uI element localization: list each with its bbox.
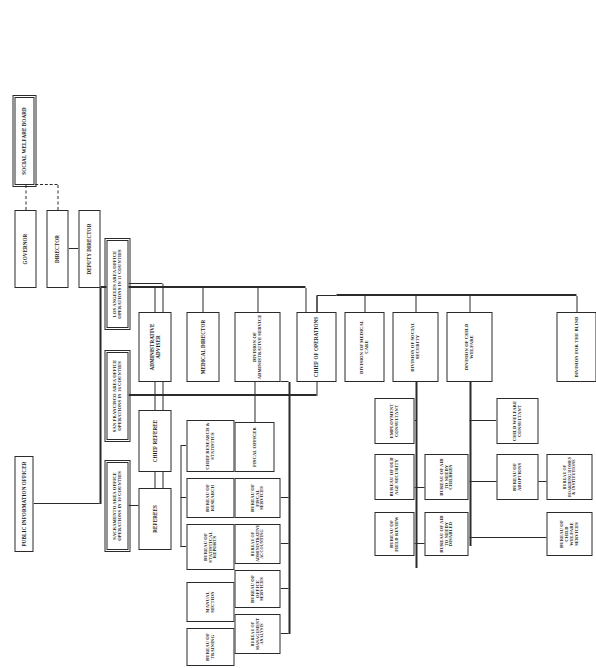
link-spine-division-admin-service	[257, 288, 258, 312]
node-division-for-the-blind: DIVISION FOR THE BLIND	[556, 312, 596, 382]
link-spine-admin-adviser	[154, 288, 155, 312]
node-manual-section: MANUAL SECTION	[186, 582, 234, 622]
dashed-link-governor-board	[25, 185, 26, 210]
node-social-welfare-board: SOCIAL WELFARE BOARD	[14, 97, 34, 185]
node-medical-director: MEDICAL DIRECTOR	[186, 312, 219, 382]
node-referees: REFEREES	[138, 488, 171, 550]
child-welfare-bus	[469, 382, 471, 546]
link-division-fiscal-officer	[254, 382, 255, 422]
social-security-bus	[415, 382, 417, 568]
node-san-francisco-area-office: SAN FRANCISCO AREA OFFICE OPERATIONS IN …	[106, 352, 128, 440]
link-spine-blind	[576, 296, 577, 312]
node-division-medical-care: DIVISION OF MEDICAL CARE	[344, 312, 384, 382]
node-bureau-management-analysis: BUREAU OF MANAGEMENT ANALYSIS	[234, 614, 280, 654]
node-bureau-aid-needy-children: BUREAU OF AID TO NEEDY CHILDREN	[424, 454, 468, 500]
bracket-drop-chief-research	[180, 445, 186, 446]
main-spine-horizontal	[99, 288, 101, 504]
node-division-child-welfare: DIVISION OF CHILD WELFARE	[446, 312, 492, 382]
node-public-information-officer: PUBLIC INFORMATION OFFICER	[14, 456, 33, 552]
node-bureau-adoptions: BUREAU OF ADOPTIONS	[496, 454, 538, 500]
node-deputy-director: DEPUTY DIRECTOR	[78, 210, 100, 288]
node-sacramento-area-office: SACRAMENTO AREA OFFICE OPERATIONS IN 30 …	[106, 462, 128, 550]
drop-office-services	[280, 588, 288, 589]
area-office-riser-main	[128, 394, 316, 396]
node-los-angeles-area-office: LOS ANGELES AREA OFFICE OPERATIONS IN 11…	[106, 240, 128, 328]
node-chief-referee: CHIEF REFEREE	[138, 410, 171, 472]
node-governor: GOVERNOR	[14, 210, 36, 288]
node-bureau-aid-needy-disabled: BUREAU OF AID TO NEEDY DISABLED	[424, 512, 468, 556]
link-spine-medical-care	[364, 296, 365, 312]
link-chief-ops-down	[316, 295, 336, 296]
node-bureau-office-services: BUREAU OF OFFICE SERVICES	[234, 570, 280, 608]
drop-child-welfare-consultant	[469, 420, 496, 421]
node-chief-of-operations: CHIEF OF OPERATIONS	[296, 312, 336, 382]
drop-admin-accounting	[280, 543, 288, 544]
bracket-drop-statistical-reports	[180, 546, 186, 547]
node-employment-consultant: EMPLOYMENT CONSULTANT	[374, 398, 414, 444]
dashed-link-board-director	[57, 185, 58, 210]
node-division-administrative-service: DIVISION OF ADMINISTRATIVE SERVICE	[234, 312, 280, 382]
link-pio-spine	[33, 503, 99, 504]
node-bureau-child-welfare-services: BUREAU OF CHILD WELFARE SERVICES	[546, 512, 592, 556]
link-spine-chief-operations	[305, 288, 306, 312]
node-chief-research-statistics: CHIEF RESEARCH & STATISTICS	[186, 420, 234, 472]
bracket-drop-bureau-research	[180, 497, 186, 498]
node-bureau-training: BUREAU OF TRAINING	[186, 628, 234, 666]
link-admin-adviser-chief-referee	[154, 382, 155, 410]
link-spine-child-welfare	[469, 296, 470, 312]
area-office-riser-los-angeles	[128, 283, 162, 284]
drop-management-analysis	[280, 633, 288, 634]
node-bureau-research: BUREAU OF RESEARCH	[186, 478, 234, 518]
node-bureau-administrative-accounting: BUREAU OF ADMINISTRATIVE ACCOUNTING	[234, 524, 280, 564]
node-child-welfare-consultant: CHILD WELFARE CONSULTANT	[496, 398, 538, 444]
node-fiscal-officer: FISCAL OFFICER	[234, 422, 274, 472]
node-bureau-old-age-security: BUREAU OF OLD AGE SECURITY	[374, 454, 414, 500]
node-bureau-boarding-homes: BUREAU OF BOARDING HOMES & INSTITUTIONS	[546, 454, 592, 500]
node-division-social-security: DIVISION OF SOCIAL SECURITY	[392, 312, 438, 382]
link-spine-medical-director	[202, 288, 203, 312]
node-director: DIRECTOR	[46, 210, 68, 288]
link-director-deputy	[68, 248, 78, 249]
node-administrative-adviser: ADMINISTRATIVE ADVISER	[138, 312, 171, 382]
node-bureau-field-review: BUREAU OF FIELD REVIEW	[374, 512, 414, 556]
link-chief-referee-referees	[154, 472, 155, 488]
division-spine	[336, 294, 576, 296]
node-bureau-fiscal-services: BUREAU OF FISCAL SERVICES	[234, 478, 280, 518]
link-spine-social-security	[415, 296, 416, 312]
drop-fiscal-services	[280, 497, 288, 498]
node-bureau-statistical-reports: BUREAU OF STATISTICAL REPORTS	[186, 524, 234, 570]
admin-service-bus	[288, 382, 290, 634]
